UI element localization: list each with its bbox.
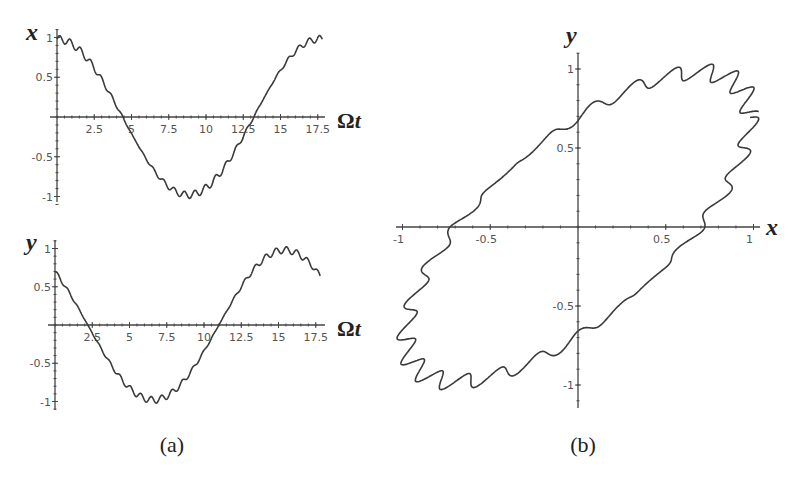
panel-label-a: (a) bbox=[160, 432, 184, 457]
figure-canvas: 2.557.51012.51517.5-1-0.50.51 x Ωt 2.557… bbox=[0, 0, 800, 483]
x-tick-label: 7.5 bbox=[160, 123, 178, 136]
x-tick-label: 12.5 bbox=[229, 331, 254, 344]
y-tick-label: 1 bbox=[46, 32, 53, 45]
x-tick-label: 15 bbox=[272, 331, 286, 344]
y-tick-label: -1 bbox=[40, 396, 51, 409]
y-tick-label: 0.5 bbox=[36, 71, 54, 84]
x-axis-label: Ωt bbox=[337, 316, 362, 341]
y-axis-label: y bbox=[563, 22, 577, 48]
x-tick-label: -0.5 bbox=[476, 233, 497, 246]
x-tick-label: 17.5 bbox=[306, 123, 331, 136]
plot-phase-plane: -1-0.50.51-1-0.50.51 y x bbox=[393, 22, 778, 408]
y-axis-label: y bbox=[23, 229, 37, 255]
y-tick-label: -0.5 bbox=[553, 300, 574, 313]
x-tick-label: 1 bbox=[746, 233, 753, 246]
y-tick-label: -1 bbox=[563, 379, 574, 392]
plot-y-vs-omega-t: 2.557.51012.51517.5-1-0.50.51 y Ωt bbox=[23, 229, 362, 410]
t-symbol: t bbox=[355, 108, 362, 133]
x-tick-label: 0.5 bbox=[653, 233, 671, 246]
x-tick-label: 17.5 bbox=[304, 331, 329, 344]
y-tick-label: 0.5 bbox=[557, 142, 575, 155]
x-tick-label: 2.5 bbox=[86, 123, 104, 136]
omega-symbol: Ω bbox=[337, 108, 355, 133]
y-tick-label: 0.5 bbox=[34, 281, 52, 294]
x-tick-label: 15 bbox=[274, 123, 288, 136]
y-tick-label: 1 bbox=[44, 243, 51, 256]
x-axis-label: x bbox=[765, 214, 778, 240]
x-tick-label: 10 bbox=[199, 123, 213, 136]
plot-x-vs-omega-t: 2.557.51012.51517.5-1-0.50.51 x Ωt bbox=[25, 19, 362, 204]
y-tick-label: 1 bbox=[567, 63, 574, 76]
x-tick-label: -1 bbox=[393, 233, 404, 246]
y-axis-label: x bbox=[25, 19, 38, 45]
panel-label-b: (b) bbox=[570, 432, 596, 457]
x-tick-label: 5 bbox=[126, 331, 133, 344]
x-axis-label: Ωt bbox=[337, 108, 362, 133]
x-tick-label: 7.5 bbox=[158, 331, 176, 344]
omega-symbol: Ω bbox=[337, 316, 355, 341]
y-tick-label: -0.5 bbox=[30, 357, 51, 370]
x-tick-label: 12.5 bbox=[231, 123, 256, 136]
t-symbol: t bbox=[355, 316, 362, 341]
y-tick-label: -0.5 bbox=[32, 151, 53, 164]
y-tick-label: -1 bbox=[42, 191, 53, 204]
